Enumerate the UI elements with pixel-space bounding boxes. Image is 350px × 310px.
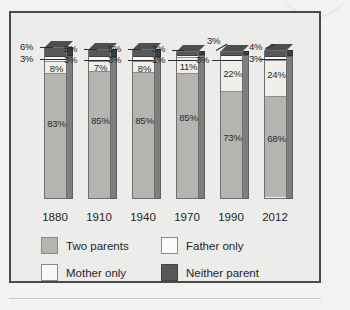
callout-neither-parent-1940: 5% [108,43,121,54]
value-label-mother-only: 22% [221,68,244,79]
segment-neither-parent [45,48,66,57]
leader-line-father-1970 [168,60,198,61]
callout-father-only-1970: 1% [152,54,165,65]
legend-item-father-only[interactable]: Father only [161,237,244,254]
bar-side-face [110,57,117,200]
bar-column-1990[interactable]: 22% 73% [220,51,250,199]
bar-column-2012[interactable]: 24% 68% [264,50,294,199]
segment-neither-parent [89,50,110,57]
legend-swatch-two-parents-icon [41,237,58,254]
legend-item-two-parents[interactable]: Two parents [41,237,129,254]
callout-neither-parent-1970: 3% [152,43,165,54]
horizontal-rule [9,298,321,299]
callout-neither-parent-1880: 6% [20,41,33,52]
segment-mother-only: 22% [221,61,242,93]
legend-row-2: Mother only Neither parent [11,264,319,291]
bar-side-face [154,57,161,200]
bar-1990[interactable]: 22% 73% [220,51,243,199]
x-tick-label-1990: 1990 [209,211,253,223]
chart-frame: 8% 83% 6% 3% 7% 85% [9,11,321,283]
stacked-bar-plot-area: 8% 83% 6% 3% 7% 85% [11,13,319,209]
legend-label-neither-parent: Neither parent [186,267,259,279]
x-tick-label-1910: 1910 [77,211,121,223]
chart-legend: Two parents Father only Mother only Neit… [11,237,319,291]
bar-1940[interactable]: 8% 85% [132,49,155,199]
legend-label-two-parents: Two parents [66,240,129,252]
legend-swatch-mother-only-icon [41,264,58,281]
value-label-two-parents: 83% [45,118,68,129]
leader-line-father-1940 [128,60,154,61]
bar-column-1940[interactable]: 8% 85% [132,49,162,199]
legend-item-mother-only[interactable]: Mother only [41,264,126,281]
x-tick-label-2012: 2012 [253,211,297,223]
segment-neither-parent [133,50,154,57]
callout-neither-parent-1910: 5% [64,43,77,54]
segment-mother-only: 8% [133,62,154,74]
x-tick-label-1970: 1970 [165,211,209,223]
segment-mother-only: 7% [89,62,110,72]
value-label-two-parents: 73% [221,132,244,143]
bar-1910[interactable]: 7% 85% [88,49,111,199]
value-label-two-parents: 85% [177,112,200,123]
bar-column-1910[interactable]: 7% 85% [88,49,118,199]
segment-two-parents: 68% [265,97,286,197]
legend-row-1: Two parents Father only [11,237,319,264]
leader-line-father-1990 [212,60,242,61]
legend-item-neither-parent[interactable]: Neither parent [161,264,259,281]
legend-label-father-only: Father only [186,240,244,252]
leader-line-neither-1880 [40,47,53,48]
segment-mother-only: 8% [45,62,66,74]
bar-column-1970[interactable]: 11% 85% [176,51,206,199]
legend-label-mother-only: Mother only [66,267,126,279]
bar-column-1880[interactable]: 8% 83% [44,47,74,199]
leader-line-father-1910 [84,60,110,61]
leader-line-father-2012 [260,59,286,60]
segment-two-parents: 85% [133,73,154,198]
segment-two-parents: 83% [45,74,66,199]
segment-two-parents: 73% [221,92,242,198]
leader-line-neither-1940 [128,49,141,50]
x-axis-year-labels: 1880 1910 1940 1970 1990 2012 [11,211,319,233]
leader-line-father-1880 [40,59,66,60]
callout-neither-parent-1990: 3% [207,35,220,46]
legend-swatch-neither-parent-icon [161,264,178,281]
callout-father-only-1880: 3% [20,53,33,64]
segment-two-parents: 85% [89,72,110,198]
value-label-two-parents: 85% [133,115,156,126]
x-tick-label-1940: 1940 [121,211,165,223]
x-tick-label-1880: 1880 [33,211,77,223]
leader-line-neither-1910 [84,49,97,50]
value-label-two-parents: 85% [89,115,112,126]
callout-father-only-1990: 3% [196,54,209,65]
bar-1880[interactable]: 8% 83% [44,47,67,199]
callout-father-only-1940: 3% [108,54,121,65]
leader-line-neither-1970 [172,50,185,51]
value-label-two-parents: 68% [265,133,288,144]
callout-father-only-1910: 3% [64,54,77,65]
segment-mother-only: 24% [265,61,286,96]
bar-1970[interactable]: 11% 85% [176,51,199,199]
callout-neither-parent-2012: 4% [249,41,262,52]
value-label-mother-only: 24% [265,69,288,80]
bar-side-face [198,55,205,199]
segment-two-parents: 85% [177,74,198,198]
legend-swatch-father-only-icon [161,237,178,254]
bar-2012[interactable]: 24% 68% [264,50,287,199]
